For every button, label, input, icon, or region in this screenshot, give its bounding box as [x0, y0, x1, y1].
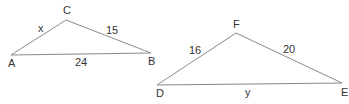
vertex-label-a: A: [8, 57, 16, 69]
vertex-label-d: D: [156, 87, 164, 99]
side-label-fe: 20: [283, 43, 295, 55]
side-label-cb: 15: [106, 24, 118, 36]
vertex-label-b: B: [148, 55, 155, 67]
vertex-label-e: E: [341, 86, 348, 98]
triangle-def: F D E 16 20 y: [156, 18, 348, 99]
vertex-label-f: F: [233, 18, 240, 30]
side-label-ab: 24: [75, 56, 87, 68]
vertex-label-c: C: [63, 4, 71, 16]
triangle-abc-outline: [11, 20, 151, 55]
triangle-abc: C A B x 15 24: [8, 4, 155, 69]
side-label-de: y: [245, 86, 251, 98]
triangles-figure: C A B x 15 24 F D E 16 20 y: [0, 0, 349, 104]
side-label-df: 16: [189, 44, 201, 56]
side-label-ac: x: [38, 22, 44, 34]
triangle-def-outline: [157, 33, 342, 85]
diagram-canvas: C A B x 15 24 F D E 16 20 y: [0, 0, 349, 104]
